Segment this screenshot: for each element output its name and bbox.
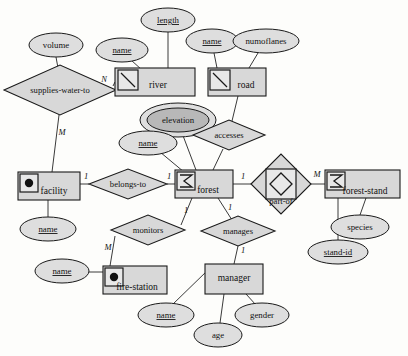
entity-label: facility xyxy=(41,186,68,196)
entity-manager[interactable]: manager xyxy=(205,264,263,294)
attribute-numoflanes[interactable]: numoflanes xyxy=(233,29,299,53)
relationship-monitors[interactable]: monitors xyxy=(111,215,185,245)
attribute-label: name xyxy=(138,138,157,148)
entity-label: fire-station xyxy=(116,282,158,292)
relationship-belongs-to[interactable]: belongs-to xyxy=(89,169,167,199)
cardinality-label: 1 xyxy=(241,245,245,255)
conn-road-accesses xyxy=(232,96,238,121)
attribute-label: name xyxy=(112,45,131,55)
attribute-label: name xyxy=(52,266,71,276)
relationship-label: monitors xyxy=(133,225,164,235)
relationship-label: supplies-water-to xyxy=(30,85,90,95)
relationship-label: part-of xyxy=(269,196,293,206)
er-diagram-canvas: volume name length name numoflanes xyxy=(0,0,408,356)
point-icon-dot xyxy=(110,273,118,281)
entity-fire-station[interactable]: fire-station xyxy=(103,266,167,294)
entity-label: manager xyxy=(218,273,252,283)
conn-manages-manager xyxy=(234,246,238,264)
cardinality-label: M xyxy=(103,242,112,252)
conn-age-manager xyxy=(220,294,224,323)
attribute-river-name[interactable]: name xyxy=(96,38,148,62)
cardinality-label: 1 xyxy=(228,202,232,212)
attribute-age[interactable]: age xyxy=(194,323,242,347)
relationship-part-of[interactable]: part-of xyxy=(251,154,311,214)
attribute-label: length xyxy=(157,15,180,25)
er-diagram-svg: volume name length name numoflanes xyxy=(0,0,408,356)
entity-label: river xyxy=(149,80,168,90)
conn-managername-manager xyxy=(172,270,208,305)
attribute-label: numoflanes xyxy=(245,36,287,46)
attribute-forest-name[interactable]: name xyxy=(119,131,177,155)
attribute-label: stand-id xyxy=(324,247,353,257)
attribute-label: age xyxy=(212,330,224,340)
entity-facility[interactable]: facility xyxy=(18,172,80,200)
cardinality-label: 1 xyxy=(241,171,245,181)
attribute-label: name xyxy=(202,36,221,46)
entity-label: road xyxy=(238,80,255,90)
conn-accesses-forest xyxy=(213,149,223,170)
attribute-label: name xyxy=(156,310,175,320)
conn-forestname-forest xyxy=(160,152,184,172)
attribute-volume[interactable]: volume xyxy=(29,33,83,57)
attribute-label: gender xyxy=(250,310,274,320)
entity-forest[interactable]: forest xyxy=(175,170,233,198)
entity-label: forest-stand xyxy=(343,186,388,196)
cardinality-label: 1 xyxy=(184,205,188,215)
entity-road[interactable]: road xyxy=(208,68,266,96)
conn-species-stand xyxy=(360,198,366,215)
attribute-label: species xyxy=(347,222,373,232)
conn-supplies-facility xyxy=(52,115,59,172)
attribute-firestation-name[interactable]: name xyxy=(35,259,89,283)
cardinality-label: M xyxy=(312,169,321,179)
attribute-road-name[interactable]: name xyxy=(186,29,238,53)
attribute-facility-name[interactable]: name xyxy=(20,217,76,241)
relationship-label: belongs-to xyxy=(110,179,146,189)
relationship-manages[interactable]: manages xyxy=(201,216,275,246)
conn-numoflanes-road xyxy=(249,53,258,68)
attribute-label: elevation xyxy=(162,115,195,125)
conn-elevation-forest xyxy=(182,133,196,170)
attribute-stand-id[interactable]: stand-id xyxy=(308,240,368,264)
relationship-label: accesses xyxy=(214,130,244,140)
cardinality-label: M xyxy=(57,127,66,137)
attribute-length[interactable]: length xyxy=(141,8,195,32)
point-icon-dot xyxy=(25,179,33,187)
cardinality-label: N xyxy=(100,74,108,84)
relationship-supplies-water-to[interactable]: supplies-water-to xyxy=(4,65,116,115)
attribute-manager-name[interactable]: name xyxy=(138,303,194,327)
cardinality-label: 1 xyxy=(167,171,171,181)
attribute-label: volume xyxy=(43,40,69,50)
attribute-gender[interactable]: gender xyxy=(235,303,289,327)
attribute-species[interactable]: species xyxy=(331,215,389,239)
relationship-label: manages xyxy=(223,226,254,236)
attribute-label: name xyxy=(38,224,57,234)
cardinality-label: 1 xyxy=(84,171,88,181)
entity-river[interactable]: river xyxy=(115,68,195,96)
conn-roadname-road xyxy=(214,53,217,68)
entity-forest-stand[interactable]: forest-stand xyxy=(325,170,400,198)
entity-label: forest xyxy=(197,185,219,195)
